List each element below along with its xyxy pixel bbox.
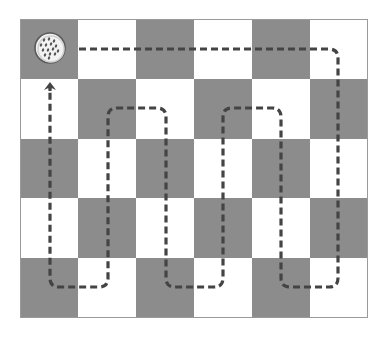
- grid-cell: [136, 19, 194, 79]
- ball-icon: [35, 33, 65, 63]
- grid-cell: [252, 198, 310, 258]
- checkerboard-diagram: [0, 0, 388, 338]
- grid-cell: [136, 258, 194, 318]
- grid-cells: [20, 19, 368, 318]
- grid-cell: [194, 139, 252, 198]
